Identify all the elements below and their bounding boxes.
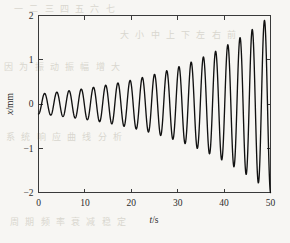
y-tick-label: 1 bbox=[29, 55, 34, 65]
x-axis-tick-labels: 01020304050 bbox=[36, 198, 275, 208]
x-tick-label: 40 bbox=[219, 198, 229, 208]
data-series-line bbox=[39, 20, 271, 192]
y-tick-label: −2 bbox=[23, 188, 33, 198]
y-axis-ticks bbox=[39, 16, 271, 193]
x-tick-label: 10 bbox=[80, 198, 90, 208]
oscillation-chart: 01020304050 −2−1012 t/s x/mm bbox=[0, 0, 290, 243]
y-tick-label: 2 bbox=[29, 11, 34, 21]
x-axis-title: t/s bbox=[150, 215, 159, 225]
y-tick-label: −1 bbox=[23, 144, 33, 154]
plot-frame bbox=[39, 16, 271, 193]
x-tick-label: 20 bbox=[127, 198, 137, 208]
y-axis-title: x/mm bbox=[5, 93, 15, 116]
x-tick-label: 0 bbox=[36, 198, 41, 208]
figure-panel: 一 二 三 四 五 六 七 大 小 中 上 下 左 右 前 因 为 振 动 振 … bbox=[0, 0, 290, 243]
y-tick-label: 0 bbox=[29, 99, 34, 109]
x-tick-label: 50 bbox=[266, 198, 276, 208]
x-axis-ticks bbox=[39, 16, 271, 193]
x-tick-label: 30 bbox=[173, 198, 183, 208]
y-axis-tick-labels: −2−1012 bbox=[23, 11, 33, 198]
